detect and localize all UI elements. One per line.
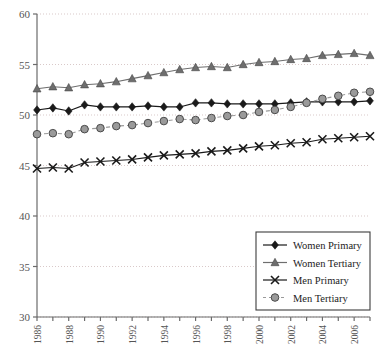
y-tick-label: 55 (19, 59, 31, 71)
y-tick-label: 60 (19, 8, 31, 20)
y-tick-label: 40 (19, 210, 31, 222)
x-tick-label: 2002 (287, 325, 297, 344)
marker-circle (160, 117, 168, 125)
marker-circle (287, 103, 295, 111)
chart-container: 3035404550556019861988199019921994199619… (0, 0, 382, 363)
marker-circle (334, 92, 342, 100)
x-tick-label: 1988 (65, 325, 75, 344)
y-tick-label: 45 (19, 160, 31, 172)
x-tick-label: 1996 (192, 325, 202, 344)
marker-circle (49, 129, 57, 137)
marker-circle (208, 114, 216, 122)
marker-circle (303, 99, 311, 107)
marker-circle (223, 112, 231, 120)
marker-circle (144, 119, 152, 127)
marker-circle (176, 115, 184, 123)
marker-circle (97, 124, 105, 132)
legend-label: Men Primary (293, 275, 349, 286)
y-tick-label: 50 (19, 109, 31, 121)
x-tick-label: 1998 (223, 325, 233, 344)
x-tick-label: 1992 (128, 325, 138, 344)
x-tick-label: 2000 (255, 325, 265, 344)
marker-circle (319, 95, 327, 103)
legend-label: Women Primary (293, 240, 363, 251)
x-tick-label: 1994 (160, 325, 170, 344)
legend: Women PrimaryWomen TertiaryMen PrimaryMe… (256, 232, 370, 310)
x-tick-label: 1986 (33, 325, 43, 344)
marker-circle (65, 130, 73, 138)
x-tick-label: 2004 (318, 325, 328, 344)
legend-label: Men Tertiary (293, 293, 349, 304)
x-tick-label: 1990 (96, 325, 106, 344)
marker-circle (33, 130, 41, 138)
marker-circle (128, 121, 136, 129)
y-tick-label: 35 (19, 261, 31, 273)
marker-circle (366, 88, 374, 96)
legend-label: Women Tertiary (293, 258, 362, 269)
y-tick-label: 30 (19, 311, 31, 323)
marker-circle (239, 111, 247, 119)
marker-circle (112, 122, 120, 130)
line-chart: 3035404550556019861988199019921994199619… (0, 0, 382, 363)
marker-circle (271, 106, 279, 114)
marker-circle (192, 116, 200, 124)
x-tick-label: 2006 (350, 325, 360, 344)
marker-circle (255, 108, 263, 116)
marker-circle (350, 89, 358, 97)
marker-circle (271, 294, 279, 302)
marker-circle (81, 125, 89, 133)
